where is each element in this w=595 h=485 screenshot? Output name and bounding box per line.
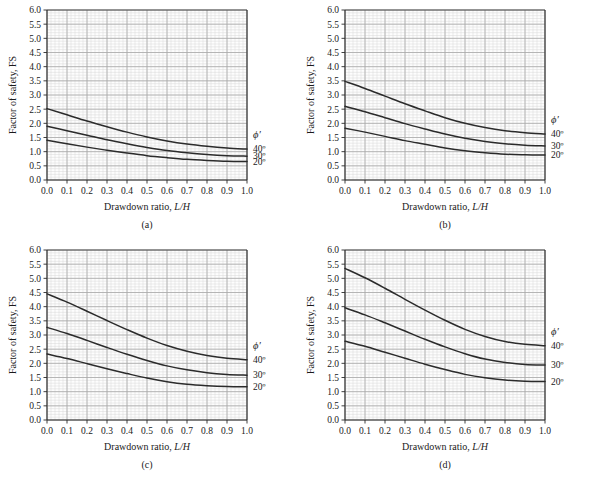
x-tick-label: 0.0 — [339, 426, 351, 436]
x-tick-label: 0.8 — [499, 426, 511, 436]
x-tick-label: 0.0 — [41, 186, 53, 196]
y-tick-label: 3.0 — [29, 330, 41, 340]
y-tick-label: 0.5 — [29, 161, 41, 171]
y-tick-label: 1.0 — [29, 147, 41, 157]
y-tick-label: 4.0 — [29, 302, 41, 312]
legend-entry-40: 40º — [551, 129, 564, 139]
y-tick-label: 5.0 — [29, 34, 41, 44]
x-tick-label: 0.8 — [201, 426, 213, 436]
y-tick-label: 1.5 — [29, 133, 41, 143]
y-tick-label: 3.5 — [29, 316, 41, 326]
y-tick-label: 0.5 — [327, 161, 339, 171]
x-tick-label: 0.3 — [101, 426, 113, 436]
y-tick-label: 3.5 — [327, 316, 339, 326]
y-tick-label: 2.5 — [327, 105, 339, 115]
legend-title-phi: ϕ′ — [551, 114, 559, 125]
x-tick-label: 1.0 — [539, 186, 551, 196]
y-tick-label: 2.5 — [29, 105, 41, 115]
y-tick-label: 4.0 — [29, 62, 41, 72]
y-tick-label: 0.0 — [29, 175, 41, 185]
chart-c: 0.00.10.20.30.40.50.60.70.80.91.00.00.51… — [0, 240, 297, 482]
figure-root: 0.00.10.20.30.40.50.60.70.80.91.00.00.51… — [0, 0, 595, 485]
y-tick-label: 0.0 — [29, 415, 41, 425]
x-tick-label: 0.1 — [61, 186, 73, 196]
legend-entry-40: 40º — [551, 341, 564, 351]
x-tick-label: 0.4 — [121, 186, 133, 196]
y-axis-title: Factor of safety, FS — [7, 296, 18, 374]
y-tick-label: 4.5 — [327, 288, 339, 298]
y-tick-labels: 0.00.51.01.52.02.53.03.54.04.55.05.56.0 — [29, 5, 41, 185]
legend-entry-30: 30º — [253, 370, 266, 380]
legend: ϕ′40º30º20º — [253, 129, 266, 167]
x-tick-label: 0.2 — [81, 426, 93, 436]
x-tick-label: 0.0 — [339, 186, 351, 196]
x-tick-label: 0.3 — [399, 186, 411, 196]
x-tick-label: 0.7 — [479, 426, 491, 436]
legend-entry-20: 20º — [551, 150, 564, 160]
panel-letter: (a) — [141, 219, 152, 231]
y-tick-label: 2.0 — [29, 359, 41, 369]
y-tick-label: 0.0 — [327, 415, 339, 425]
x-axis-title: Drawdown ratio, L/H — [104, 201, 191, 212]
y-tick-label: 4.5 — [29, 288, 41, 298]
legend: ϕ′40º30º20º — [551, 326, 564, 387]
y-tick-label: 3.5 — [29, 76, 41, 86]
y-axis-title: Factor of safety, FS — [7, 56, 18, 134]
x-axis-title: Drawdown ratio, L/H — [104, 441, 191, 452]
y-tick-label: 4.5 — [327, 48, 339, 58]
x-tick-labels: 0.00.10.20.30.40.50.60.70.80.91.0 — [339, 186, 551, 196]
y-tick-labels: 0.00.51.01.52.02.53.03.54.04.55.05.56.0 — [327, 245, 339, 425]
y-tick-label: 4.0 — [327, 62, 339, 72]
x-tick-label: 0.2 — [379, 426, 391, 436]
y-tick-labels: 0.00.51.01.52.02.53.03.54.04.55.05.56.0 — [327, 5, 339, 185]
x-tick-label: 0.3 — [399, 426, 411, 436]
y-tick-label: 5.0 — [327, 34, 339, 44]
x-tick-label: 0.9 — [221, 186, 233, 196]
panel-a: 0.00.10.20.30.40.50.60.70.80.91.00.00.51… — [0, 0, 297, 242]
x-tick-label: 0.1 — [61, 426, 73, 436]
y-tick-label: 5.5 — [327, 20, 339, 30]
x-tick-label: 1.0 — [539, 426, 551, 436]
legend-entry-30: 30º — [551, 360, 564, 370]
x-tick-label: 0.7 — [181, 186, 193, 196]
y-tick-label: 3.0 — [327, 90, 339, 100]
y-tick-label: 6.0 — [327, 245, 339, 255]
legend-title-phi: ϕ′ — [253, 129, 261, 140]
y-axis-title: Factor of safety, FS — [305, 296, 316, 374]
y-tick-label: 2.5 — [327, 345, 339, 355]
y-tick-label: 5.5 — [29, 260, 41, 270]
x-tick-label: 0.5 — [141, 426, 153, 436]
x-tick-label: 0.9 — [221, 426, 233, 436]
y-tick-label: 2.0 — [327, 359, 339, 369]
y-tick-label: 1.0 — [327, 387, 339, 397]
x-tick-label: 0.5 — [439, 186, 451, 196]
x-tick-label: 0.2 — [379, 186, 391, 196]
y-tick-label: 0.5 — [29, 401, 41, 411]
legend-title-phi: ϕ′ — [551, 326, 559, 337]
y-tick-label: 1.5 — [29, 373, 41, 383]
x-tick-label: 0.1 — [359, 186, 371, 196]
y-tick-label: 6.0 — [29, 5, 41, 15]
y-tick-label: 5.5 — [327, 260, 339, 270]
legend-entry-40: 40º — [253, 355, 266, 365]
y-tick-label: 0.0 — [327, 175, 339, 185]
panel-c: 0.00.10.20.30.40.50.60.70.80.91.00.00.51… — [0, 240, 297, 482]
x-tick-label: 0.1 — [359, 426, 371, 436]
x-tick-label: 1.0 — [241, 186, 253, 196]
y-tick-label: 0.5 — [327, 401, 339, 411]
y-tick-label: 1.0 — [29, 387, 41, 397]
x-tick-label: 0.5 — [439, 426, 451, 436]
legend-entry-20: 20º — [253, 382, 266, 392]
y-tick-label: 5.0 — [29, 274, 41, 284]
x-tick-label: 0.4 — [419, 426, 431, 436]
legend-entry-20: 20º — [551, 377, 564, 387]
panel-letter: (b) — [439, 219, 451, 231]
x-tick-label: 0.6 — [161, 186, 173, 196]
x-axis-title: Drawdown ratio, L/H — [402, 441, 489, 452]
x-tick-labels: 0.00.10.20.30.40.50.60.70.80.91.0 — [41, 186, 253, 196]
y-tick-label: 1.5 — [327, 373, 339, 383]
y-tick-label: 6.0 — [29, 245, 41, 255]
legend-entry-20: 20º — [253, 157, 266, 167]
y-tick-label: 4.5 — [29, 48, 41, 58]
chart-a: 0.00.10.20.30.40.50.60.70.80.91.00.00.51… — [0, 0, 297, 242]
